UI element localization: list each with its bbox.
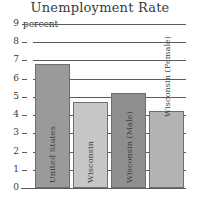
y-axis-tick-mark — [22, 170, 27, 171]
y-axis-tick-mark — [22, 152, 27, 153]
y-axis-tick-mark — [22, 115, 27, 116]
y-axis-tick-mark — [22, 60, 27, 61]
y-axis-tick-mark — [22, 133, 27, 134]
bar[interactable]: Wisconsin — [73, 102, 108, 188]
bar[interactable]: Wisconsin (Female) — [149, 111, 184, 188]
y-axis-tick-mark — [22, 24, 27, 25]
y-axis-tick-label: 5 — [5, 91, 19, 101]
y-axis-tick-label: 2 — [5, 146, 19, 156]
bar[interactable]: Wisconsin (Male) — [111, 93, 146, 188]
y-axis-tick-label: 4 — [5, 109, 19, 119]
bar-label: Wisconsin (Female) — [162, 36, 171, 117]
gridline — [33, 24, 186, 25]
y-axis-tick-mark — [22, 97, 27, 98]
gridline — [33, 42, 186, 43]
y-axis-tick-label: 7 — [5, 54, 19, 64]
plot-area: United StatesWisconsinWisconsin (Male)Wi… — [33, 24, 186, 188]
gridline — [33, 60, 186, 61]
x-axis-baseline — [21, 188, 186, 189]
y-axis-tick-mark — [22, 79, 27, 80]
y-axis-tick-label: 6 — [5, 73, 19, 83]
y-axis-tick-label: 0 — [5, 182, 19, 192]
y-axis-tick-label: 1 — [5, 164, 19, 174]
y-axis-tick-mark — [22, 42, 27, 43]
bar-label: Wisconsin — [86, 141, 95, 183]
bar[interactable]: United States — [35, 64, 70, 188]
chart-title: Unemployment Rate — [0, 0, 200, 15]
unemployment-rate-chart: Unemployment Rate percent 0123456789 Uni… — [0, 0, 200, 201]
bar-label: United States — [48, 126, 57, 183]
y-axis-tick-label: 3 — [5, 127, 19, 137]
y-axis-tick-label: 8 — [5, 36, 19, 46]
bar-label: Wisconsin (Male) — [124, 111, 133, 183]
y-axis-tick-label: 9 — [5, 18, 19, 28]
